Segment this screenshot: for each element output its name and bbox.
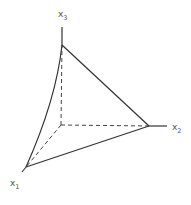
edge-x3-x2 bbox=[62, 45, 149, 126]
dashed-axis-x2 bbox=[61, 125, 149, 126]
diagram-canvas: x3 x2 x1 bbox=[0, 0, 191, 205]
label-x2: x2 bbox=[172, 122, 181, 135]
hidden-axes bbox=[26, 45, 149, 167]
simplex-diagram: x3 x2 x1 bbox=[0, 0, 191, 205]
edge-x1-x2 bbox=[26, 126, 149, 167]
label-x3: x3 bbox=[58, 9, 67, 22]
axis-x1-extension bbox=[22, 167, 26, 172]
label-x1: x1 bbox=[10, 178, 19, 191]
simplex-edges bbox=[26, 45, 149, 167]
axis-extensions bbox=[22, 27, 167, 172]
edge-x3-x1 bbox=[26, 45, 62, 167]
dashed-axis-x3 bbox=[61, 45, 62, 125]
